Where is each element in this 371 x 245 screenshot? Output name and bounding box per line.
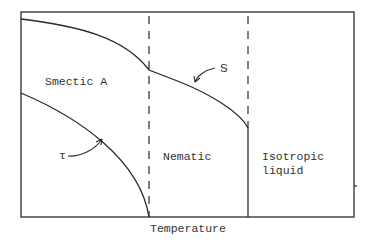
x-axis-label: Temperature: [150, 222, 226, 236]
phase-diagram-plot: [0, 0, 371, 245]
region-label-isotropic-line2: liquid: [262, 164, 303, 178]
region-label-nematic: Nematic: [163, 150, 211, 164]
tau-arrowhead-icon: [96, 139, 102, 145]
curve-s: [21, 19, 248, 217]
region-label-isotropic-line1: Isotropic: [262, 150, 324, 164]
curve-tau: [21, 93, 149, 217]
region-label-smectic-a: Smectic A: [45, 75, 107, 89]
curve-label-s: S: [220, 61, 228, 75]
plot-frame: [21, 12, 354, 217]
curve-label-tau: τ: [59, 149, 66, 163]
